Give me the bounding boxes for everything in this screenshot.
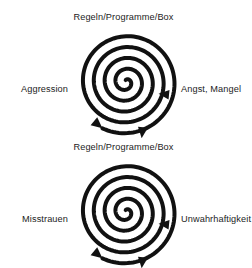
misstrauen-spiral-group: Regeln/Programme/Box Misstrauen Unwahrha… [0, 130, 247, 261]
right-label-angst-mangel: Angst, Mangel [181, 84, 241, 95]
top-label-aggression-spiral: Regeln/Programme/Box [0, 12, 247, 23]
left-label-aggression: Aggression [21, 84, 68, 95]
spiral-graphic-bottom [70, 156, 182, 268]
aggression-spiral-group: Regeln/Programme/Box Aggression Angst, M… [0, 0, 247, 131]
top-label-misstrauen-spiral: Regeln/Programme/Box [0, 142, 247, 153]
right-label-unwahrhaftigkeit: Unwahrhaftigkeit [181, 214, 251, 225]
left-label-misstrauen: Misstrauen [22, 214, 68, 225]
arrowhead-left-icon [91, 247, 103, 258]
arrowhead-left-icon [91, 117, 103, 128]
spiral-graphic-top [70, 26, 182, 138]
